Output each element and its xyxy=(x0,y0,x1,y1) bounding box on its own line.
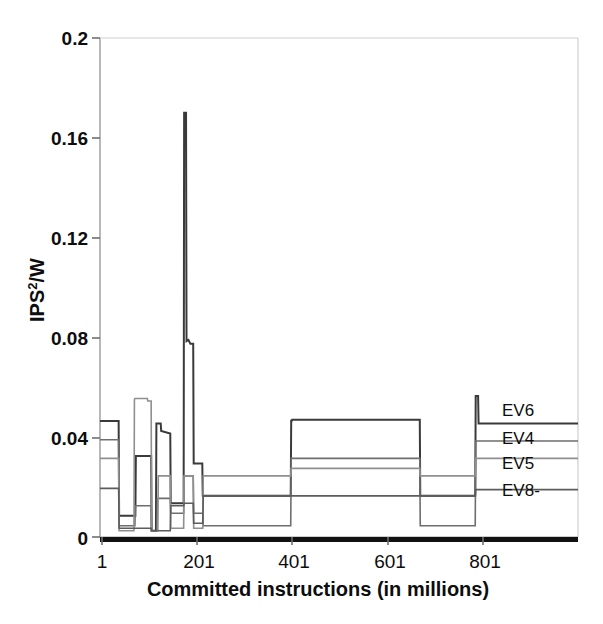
y-tick-label-0_04: 0.04 xyxy=(51,428,88,449)
x-axis-title: Committed instructions (in millions) xyxy=(147,578,489,600)
y-axis-title-tail: /W xyxy=(26,258,48,283)
y-tick-label-0_16: 0.16 xyxy=(51,128,88,149)
legend-label-ev5: EV5 xyxy=(502,454,534,473)
legend-label-ev8: EV8- xyxy=(502,481,540,500)
y-tick-label-0: 0 xyxy=(77,528,88,549)
y-axis-title-base: IPS xyxy=(26,290,48,322)
chart-figure: 0.2 0.16 0.12 0.08 0.04 0 1 201 401 601 … xyxy=(0,0,603,624)
y-tick-label-0_08: 0.08 xyxy=(51,328,88,349)
x-tick-label-401: 401 xyxy=(278,551,310,572)
legend: EV6 EV4 EV5 EV8- xyxy=(502,401,540,500)
y-axis-title-superscript: 2 xyxy=(25,282,40,289)
x-tick-label-801: 801 xyxy=(469,551,501,572)
x-tick-label-601: 601 xyxy=(374,551,406,572)
x-tick-label-1: 1 xyxy=(97,551,108,572)
svg-text:IPS2/W: IPS2/W xyxy=(25,258,48,322)
legend-label-ev6: EV6 xyxy=(502,401,534,420)
x-tick-label-201: 201 xyxy=(183,551,215,572)
x-axis-baseline xyxy=(100,537,578,542)
legend-label-ev4: EV4 xyxy=(502,429,534,448)
chart-canvas: 0.2 0.16 0.12 0.08 0.04 0 1 201 401 601 … xyxy=(0,0,603,624)
y-axis-title: IPS2/W xyxy=(25,258,48,322)
y-tick-label-0_2: 0.2 xyxy=(62,28,88,49)
y-tick-marks xyxy=(92,38,100,537)
y-tick-label-0_12: 0.12 xyxy=(51,228,88,249)
